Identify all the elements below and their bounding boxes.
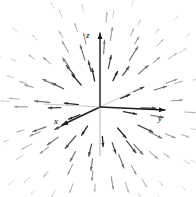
axis-arrowhead-z: [97, 33, 102, 39]
axis-group: [44, 33, 165, 156]
field-arrow-head: [101, 143, 104, 147]
field-arrow-head: [106, 12, 108, 15]
axis-extension-x: [100, 88, 140, 107]
field-arrow-shaft: [0, 55, 2, 58]
axis-line-x: [62, 107, 100, 125]
field-arrow-head: [20, 81, 23, 83]
field-arrow-head: [163, 86, 167, 89]
field-arrow-shaft: [191, 129, 196, 131]
field-arrow-head: [25, 84, 28, 86]
axis-arrowhead-y: [159, 107, 165, 112]
field-arrow-head: [127, 189, 129, 192]
field-arrow-group: [0, 0, 196, 197]
field-arrow-head: [80, 45, 83, 49]
field-arrow-shaft: [139, 193, 142, 197]
field-arrow-head: [121, 164, 124, 168]
field-arrow-head: [180, 81, 183, 83]
field-arrow-shaft: [132, 0, 134, 6]
field-arrow-head: [48, 106, 52, 109]
field-arrow-head: [94, 189, 96, 192]
field-arrow-head: [113, 149, 116, 153]
axis-label-z: z: [86, 31, 90, 40]
field-arrow-shaft: [158, 195, 162, 197]
field-arrow-head: [17, 130, 20, 132]
field-arrow-head: [174, 79, 177, 81]
field-arrow-head: [172, 136, 175, 138]
field-arrow-shaft: [193, 78, 196, 80]
field-arrow-head: [70, 190, 72, 193]
field-arrow-head: [15, 106, 18, 109]
axis-label-y: y: [158, 114, 162, 123]
field-arrow-head: [103, 40, 106, 44]
vector-field-figure: z x y: [0, 0, 196, 197]
field-arrow-head: [193, 111, 196, 113]
field-arrow-head: [74, 23, 76, 26]
vector-field-canvas: [0, 0, 196, 197]
field-arrow-head: [4, 140, 6, 142]
field-arrow-head: [186, 135, 189, 137]
field-arrow-head: [33, 129, 37, 132]
axis-label-x: x: [54, 117, 58, 126]
field-arrow-head: [1, 100, 3, 102]
field-arrow-head: [69, 116, 73, 119]
field-arrow-head: [7, 76, 9, 78]
